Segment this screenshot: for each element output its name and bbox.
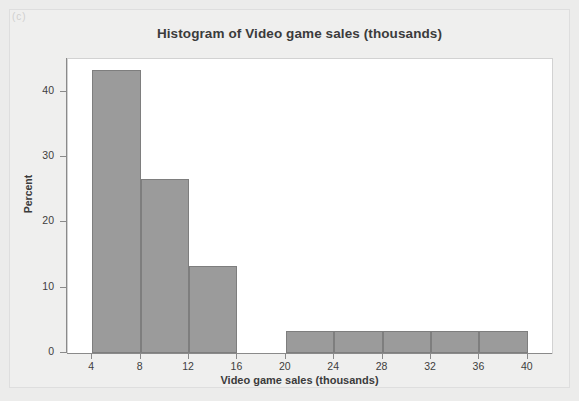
y-axis-tick (60, 221, 66, 222)
x-axis-title: Video game sales (thousands) (10, 374, 579, 386)
x-axis-tick (430, 354, 431, 359)
x-axis-tick-label: 20 (270, 360, 300, 372)
x-axis-tick (140, 354, 141, 359)
y-axis-tick (60, 287, 66, 288)
y-axis-tick (60, 352, 66, 353)
histogram-bar (479, 331, 527, 353)
x-axis-tick (527, 354, 528, 359)
x-axis-tick (382, 354, 383, 359)
x-axis-tick-label: 28 (367, 360, 397, 372)
histogram-bar (334, 331, 382, 353)
y-axis-tick-label: 0 (20, 345, 54, 357)
x-axis-tick-label: 4 (76, 360, 106, 372)
y-axis-tick-label: 10 (20, 280, 54, 292)
histogram-bar (286, 331, 334, 353)
y-axis-tick (60, 156, 66, 157)
histogram-bar (383, 331, 431, 353)
histogram-bar (189, 266, 237, 353)
x-axis-tick-label: 40 (512, 360, 542, 372)
figure-panel: (c) Histogram of Video game sales (thous… (9, 9, 570, 388)
x-axis-tick (285, 354, 286, 359)
x-axis-tick-label: 24 (318, 360, 348, 372)
x-axis-tick-label: 36 (463, 360, 493, 372)
y-axis-title: Percent (22, 154, 34, 234)
x-axis-tick-label: 12 (173, 360, 203, 372)
y-axis-line (66, 58, 67, 353)
x-axis-tick-label: 16 (221, 360, 251, 372)
x-axis-tick (236, 354, 237, 359)
chart-title: Histogram of Video game sales (thousands… (10, 26, 579, 41)
x-axis-tick (188, 354, 189, 359)
scanned-page: (c) Histogram of Video game sales (thous… (0, 0, 579, 401)
histogram-bar (141, 179, 189, 353)
x-axis-tick (333, 354, 334, 359)
bars-container (68, 59, 552, 353)
x-axis-tick (478, 354, 479, 359)
corner-marker: (c) (12, 10, 38, 23)
x-axis-tick-label: 8 (125, 360, 155, 372)
y-axis-tick (60, 91, 66, 92)
histogram-bar (92, 70, 140, 353)
y-axis-tick-label: 40 (20, 84, 54, 96)
x-axis-tick-label: 32 (415, 360, 445, 372)
histogram-bar (431, 331, 479, 353)
plot-area (67, 58, 553, 354)
x-axis-tick (91, 354, 92, 359)
